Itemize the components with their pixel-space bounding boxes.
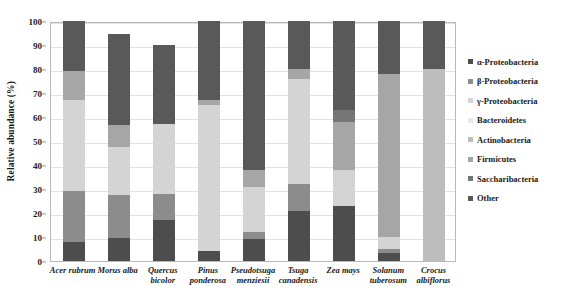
legend-label: Saccharibacteria xyxy=(477,174,538,184)
legend-swatch-icon xyxy=(468,59,473,64)
bar-segment xyxy=(378,237,400,249)
y-axis-tickmark-60 xyxy=(42,118,46,119)
legend-label: α-Proteobacteria xyxy=(477,57,538,67)
bar-segment xyxy=(288,211,310,261)
legend-item-proteobacteria[interactable]: α-Proteobacteria xyxy=(468,52,568,72)
bar-segment xyxy=(243,170,265,187)
bar-segment xyxy=(288,79,310,185)
y-axis-tickmark-20 xyxy=(42,214,46,215)
y-axis-tick-20: 20 xyxy=(33,209,42,219)
y-axis-tickmark-70 xyxy=(42,94,46,95)
bar-segment xyxy=(198,251,220,261)
y-axis-tick-60: 60 xyxy=(33,113,42,123)
bar-segment xyxy=(333,122,355,170)
legend-swatch-icon xyxy=(468,196,473,201)
legend-swatch-icon xyxy=(468,79,473,84)
legend-label: Actinobacteria xyxy=(477,135,531,145)
bar-segment xyxy=(108,195,130,238)
bar-pseudotsuga-menziesii[interactable] xyxy=(243,21,265,261)
bar-segment xyxy=(288,184,310,210)
bar-segment xyxy=(108,147,130,195)
legend-item-proteobacteria[interactable]: γ-Proteobacteria xyxy=(468,91,568,111)
legend-swatch-icon xyxy=(468,98,473,103)
legend-label: β-Proteobacteria xyxy=(477,76,538,86)
bar-segment xyxy=(333,206,355,261)
legend-swatch-icon xyxy=(468,176,473,181)
bar-segment xyxy=(63,242,85,261)
y-axis-tick-100: 100 xyxy=(29,17,43,27)
legend-item-bacteroidetes[interactable]: Bacteroidetes xyxy=(468,111,568,131)
chart-figure: Relative abundance (%) 01020304050607080… xyxy=(0,0,570,298)
y-axis-title-text: Relative abundance (%) xyxy=(6,81,16,181)
y-axis-tickmark-90 xyxy=(42,46,46,47)
bar-tsuga-canadensis[interactable] xyxy=(288,21,310,261)
bar-segment xyxy=(108,125,130,147)
y-axis-tickmark-0 xyxy=(42,262,46,263)
bar-segment xyxy=(333,170,355,206)
bar-segment xyxy=(153,194,175,220)
bar-segment xyxy=(153,45,175,124)
x-axis-tick-line: Crocus xyxy=(406,265,460,275)
legend-label: Other xyxy=(477,193,499,203)
y-axis-tick-50: 50 xyxy=(33,137,42,147)
y-axis-tickmark-80 xyxy=(42,70,46,71)
x-axis-tick-crocus-albiflorus: Crocusalbiflorus xyxy=(406,265,460,285)
x-axis-tick-line: albiflorus xyxy=(406,275,460,285)
legend-swatch-icon xyxy=(468,137,473,142)
legend-label: Bacteroidetes xyxy=(477,115,526,125)
bar-segment xyxy=(378,253,400,261)
bar-quercus-bicolor[interactable] xyxy=(153,45,175,261)
bar-segment xyxy=(378,74,400,237)
y-axis-tickmark-40 xyxy=(42,166,46,167)
legend-item-saccharibacteria[interactable]: Saccharibacteria xyxy=(468,169,568,189)
y-axis-tickmark-50 xyxy=(42,142,46,143)
bar-segment xyxy=(198,21,220,100)
y-axis-tick-40: 40 xyxy=(33,161,42,171)
y-axis-tick-30: 30 xyxy=(33,185,42,195)
y-axis-tick-80: 80 xyxy=(33,65,42,75)
bar-pinus-ponderosa[interactable] xyxy=(198,21,220,261)
chart-legend: α-Proteobacteriaβ-Proteobacteriaγ-Proteo… xyxy=(468,52,568,208)
bar-zea-mays[interactable] xyxy=(333,21,355,261)
bar-segment xyxy=(288,69,310,79)
legend-swatch-icon xyxy=(468,118,473,123)
bar-segment xyxy=(153,220,175,261)
y-axis-tick-90: 90 xyxy=(33,41,42,51)
bar-segment xyxy=(108,34,130,125)
bar-segment xyxy=(153,124,175,194)
legend-label: γ-Proteobacteria xyxy=(477,96,537,106)
bar-segment xyxy=(243,239,265,261)
x-axis-tick-line: canadensis xyxy=(271,275,325,285)
bar-segment xyxy=(378,21,400,74)
y-axis-tick-10: 10 xyxy=(33,233,42,243)
legend-item-firmicutes[interactable]: Firmicutes xyxy=(468,150,568,170)
bar-segment xyxy=(243,187,265,233)
y-axis-tickmark-10 xyxy=(42,238,46,239)
x-axis-tick-labels: Acer rubrumMorus albaQuercusbicolorPinus… xyxy=(50,265,456,298)
bar-segment xyxy=(288,21,310,69)
legend-label: Firmicutes xyxy=(477,154,516,164)
y-axis-tick-labels: 0102030405060708090100 xyxy=(18,0,46,298)
legend-swatch-icon xyxy=(468,157,473,162)
bar-segment xyxy=(423,21,445,69)
y-axis-tickmark-30 xyxy=(42,190,46,191)
legend-item-other[interactable]: Other xyxy=(468,189,568,209)
bar-segment xyxy=(423,69,445,261)
bar-solanum-tuberosum[interactable] xyxy=(378,21,400,261)
plot-area xyxy=(50,22,456,262)
bar-segment xyxy=(63,100,85,191)
bar-segment xyxy=(108,238,130,261)
legend-item-proteobacteria[interactable]: β-Proteobacteria xyxy=(468,72,568,92)
bar-segment xyxy=(243,232,265,239)
bar-segment xyxy=(333,21,355,110)
bar-acer-rubrum[interactable] xyxy=(63,21,85,261)
bar-morus-alba[interactable] xyxy=(108,34,130,261)
bar-segment xyxy=(198,105,220,251)
bar-segment xyxy=(333,110,355,122)
bar-crocus-albiflorus[interactable] xyxy=(423,21,445,261)
legend-item-actinobacteria[interactable]: Actinobacteria xyxy=(468,130,568,150)
bar-segment xyxy=(243,21,265,170)
bar-segment xyxy=(63,21,85,71)
y-axis-tickmark-100 xyxy=(42,22,46,23)
bar-segment xyxy=(63,191,85,241)
